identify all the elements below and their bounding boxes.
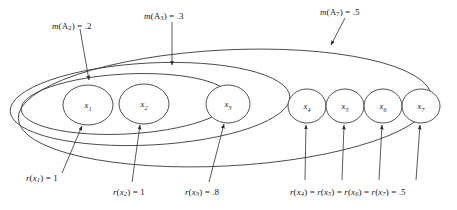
leader-line-r-x5 [342,125,344,180]
focal-element-diagram: x1 x2 x3 x4 x5 x6 x7 [0,0,457,210]
leader-line-r-x7 [416,125,420,180]
leader-line-r-x3 [209,124,224,182]
node-x2: x2 [119,84,169,124]
leader-line-r-x1 [62,126,82,173]
node-x4: x4 [288,89,326,123]
node-annotation-r-x3: r(x3) = .8 [185,188,219,198]
leader-line-A7 [331,18,345,45]
set-label-A3: m(A3) = .3 [144,12,184,22]
node-x1: x1 [63,85,113,125]
node-x5: x5 [326,89,364,123]
node-x3: x3 [206,85,250,123]
leader-line-r-x4 [305,125,306,180]
node-x6: x6 [364,89,402,123]
node-annotation-r-x1: r(x1) = 1 [26,174,58,184]
node-annotation-r-x4567: r(x4) = r(x5) = r(x6) = r(x7) = .5 [290,188,406,198]
leader-line-r-x6 [379,125,382,180]
set-label-A7: m(A7) = .5 [320,8,360,18]
node-annotation-r-x2: r(x2) = 1 [113,188,145,198]
set-label-A2: m(A2) = .2 [52,22,92,32]
node-x7: x7 [402,89,440,123]
